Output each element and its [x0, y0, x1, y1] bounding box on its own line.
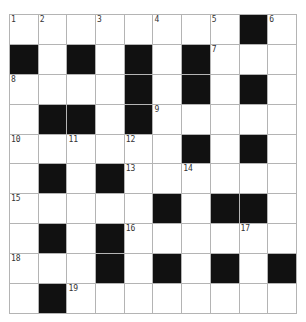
- crossword-cell[interactable]: [10, 164, 39, 194]
- black-cell: [182, 135, 211, 165]
- crossword-cell[interactable]: [268, 164, 297, 194]
- crossword-cell[interactable]: [268, 135, 297, 165]
- crossword-cell[interactable]: [182, 284, 211, 314]
- clue-number: 4: [154, 15, 159, 24]
- crossword-cell[interactable]: 10: [10, 135, 39, 165]
- crossword-cell[interactable]: [153, 284, 182, 314]
- crossword-cell[interactable]: [182, 105, 211, 135]
- crossword-cell[interactable]: [240, 105, 269, 135]
- crossword-cell[interactable]: 4: [153, 15, 182, 45]
- black-cell: [153, 194, 182, 224]
- crossword-cell[interactable]: [268, 194, 297, 224]
- black-cell: [240, 75, 269, 105]
- crossword-cell[interactable]: [240, 284, 269, 314]
- crossword-cell[interactable]: [211, 105, 240, 135]
- crossword-cell[interactable]: [182, 254, 211, 284]
- crossword-cell[interactable]: [67, 224, 96, 254]
- clue-number: 17: [241, 224, 251, 233]
- clue-number: 7: [212, 45, 217, 54]
- black-cell: [268, 254, 297, 284]
- crossword-cell[interactable]: [10, 284, 39, 314]
- crossword-cell[interactable]: [211, 284, 240, 314]
- black-cell: [125, 45, 154, 75]
- crossword-cell[interactable]: [268, 105, 297, 135]
- crossword-cell[interactable]: [125, 284, 154, 314]
- black-cell: [67, 45, 96, 75]
- crossword-cell[interactable]: 2: [39, 15, 68, 45]
- crossword-cell[interactable]: [211, 164, 240, 194]
- crossword-cell[interactable]: [10, 105, 39, 135]
- crossword-cell[interactable]: [67, 164, 96, 194]
- black-cell: [125, 75, 154, 105]
- crossword-cell[interactable]: 11: [67, 135, 96, 165]
- crossword-cell[interactable]: [240, 164, 269, 194]
- crossword-cell[interactable]: [39, 75, 68, 105]
- crossword-cell[interactable]: [182, 224, 211, 254]
- crossword-cell[interactable]: 18: [10, 254, 39, 284]
- crossword-cell[interactable]: [182, 15, 211, 45]
- crossword-cell[interactable]: [39, 254, 68, 284]
- crossword-cell[interactable]: [39, 135, 68, 165]
- black-cell: [39, 284, 68, 314]
- clue-number: 1: [11, 15, 16, 24]
- crossword-cell[interactable]: [125, 15, 154, 45]
- crossword-cell[interactable]: [96, 135, 125, 165]
- crossword-cell[interactable]: [125, 254, 154, 284]
- crossword-cell[interactable]: 19: [67, 284, 96, 314]
- crossword-cell[interactable]: [39, 45, 68, 75]
- black-cell: [182, 75, 211, 105]
- crossword-cell[interactable]: 13: [125, 164, 154, 194]
- crossword-cell[interactable]: [268, 75, 297, 105]
- crossword-cell[interactable]: 15: [10, 194, 39, 224]
- black-cell: [211, 194, 240, 224]
- crossword-cell[interactable]: 7: [211, 45, 240, 75]
- crossword-cell[interactable]: [67, 75, 96, 105]
- crossword-cell[interactable]: [268, 224, 297, 254]
- crossword-cell[interactable]: [268, 284, 297, 314]
- crossword-cell[interactable]: [10, 224, 39, 254]
- crossword-cell[interactable]: [125, 194, 154, 224]
- crossword-cell[interactable]: [153, 164, 182, 194]
- black-cell: [96, 254, 125, 284]
- crossword-cell[interactable]: 5: [211, 15, 240, 45]
- crossword-cell[interactable]: [153, 135, 182, 165]
- crossword-cell[interactable]: [240, 45, 269, 75]
- crossword-cell[interactable]: [182, 194, 211, 224]
- clue-number: 6: [269, 15, 274, 24]
- crossword-cell[interactable]: [211, 75, 240, 105]
- crossword-cell[interactable]: [96, 75, 125, 105]
- black-cell: [67, 105, 96, 135]
- crossword-cell[interactable]: [96, 105, 125, 135]
- crossword-cell[interactable]: [153, 224, 182, 254]
- crossword-cell[interactable]: 8: [10, 75, 39, 105]
- crossword-cell[interactable]: 17: [240, 224, 269, 254]
- crossword-cell[interactable]: [67, 15, 96, 45]
- crossword-cell[interactable]: [211, 135, 240, 165]
- black-cell: [240, 15, 269, 45]
- black-cell: [240, 194, 269, 224]
- black-cell: [96, 164, 125, 194]
- clue-number: 15: [11, 194, 21, 203]
- crossword-cell[interactable]: 12: [125, 135, 154, 165]
- clue-number: 12: [126, 135, 136, 144]
- crossword-cell[interactable]: [153, 45, 182, 75]
- crossword-cell[interactable]: 6: [268, 15, 297, 45]
- crossword-cell[interactable]: [268, 45, 297, 75]
- black-cell: [39, 105, 68, 135]
- crossword-cell[interactable]: [240, 254, 269, 284]
- crossword-cell[interactable]: [211, 224, 240, 254]
- crossword-cell[interactable]: [39, 194, 68, 224]
- crossword-cell[interactable]: [96, 194, 125, 224]
- crossword-cell[interactable]: [67, 194, 96, 224]
- clue-number: 14: [183, 164, 193, 173]
- crossword-cell[interactable]: 16: [125, 224, 154, 254]
- crossword-cell[interactable]: 1: [10, 15, 39, 45]
- crossword-cell[interactable]: 3: [96, 15, 125, 45]
- crossword-cell[interactable]: 9: [153, 105, 182, 135]
- crossword-cell[interactable]: [67, 254, 96, 284]
- black-cell: [96, 224, 125, 254]
- crossword-cell[interactable]: 14: [182, 164, 211, 194]
- crossword-cell[interactable]: [96, 45, 125, 75]
- crossword-cell[interactable]: [96, 284, 125, 314]
- crossword-cell[interactable]: [153, 75, 182, 105]
